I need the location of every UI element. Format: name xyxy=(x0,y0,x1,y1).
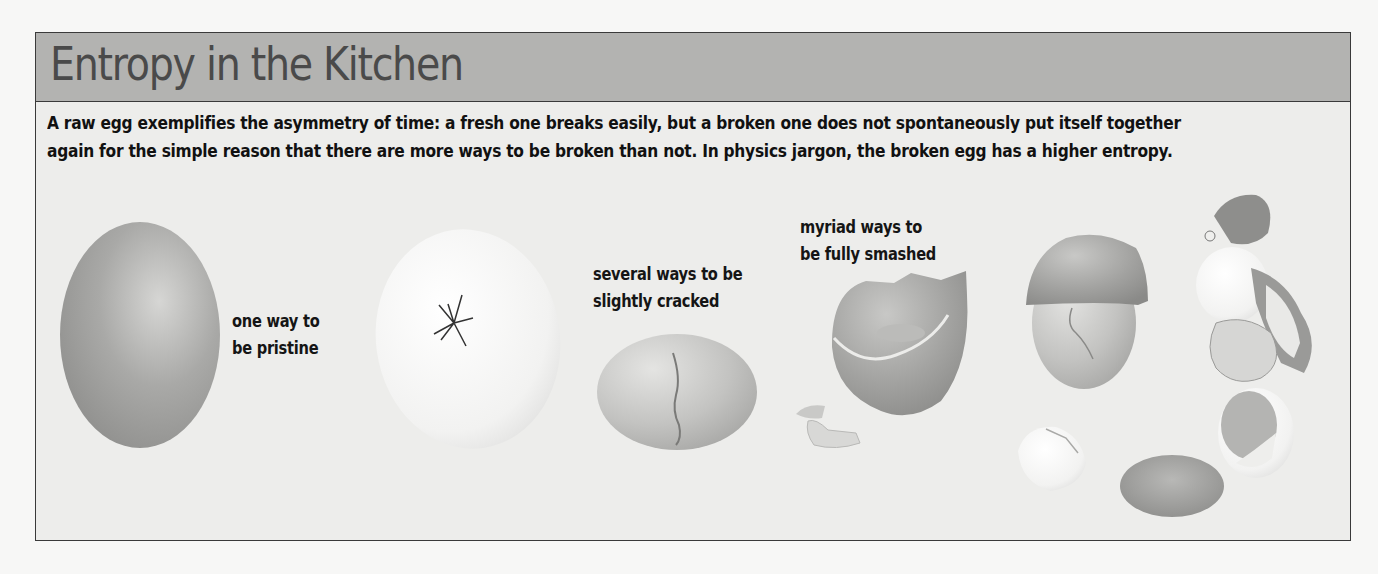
crushed-egg-pile-icon xyxy=(1196,195,1312,381)
broken-shell-half-icon xyxy=(1018,427,1086,491)
cracked-egg-star-icon xyxy=(362,217,575,460)
label-smashed: myriad ways to be fully smashed xyxy=(800,214,936,268)
figure-header: Entropy in the Kitchen xyxy=(36,33,1350,102)
label-smashed-line-1: myriad ways to xyxy=(800,214,936,241)
shell-fragments-icon xyxy=(796,405,860,447)
label-smashed-line-2: be fully smashed xyxy=(800,241,936,268)
capped-broken-egg-icon xyxy=(1026,235,1148,389)
pristine-egg-icon xyxy=(60,222,220,448)
label-pristine-line-2: be pristine xyxy=(232,335,319,362)
figure-title: Entropy in the Kitchen xyxy=(50,37,463,91)
label-pristine: one way to be pristine xyxy=(232,308,319,362)
label-cracked-line-1: several ways to be xyxy=(593,261,742,288)
label-cracked-line-2: slightly cracked xyxy=(593,288,742,315)
yolk-and-shell-halves-icon xyxy=(1120,388,1294,517)
entropy-figure: Entropy in the Kitchen A raw egg exempli… xyxy=(35,32,1351,541)
label-pristine-line-1: one way to xyxy=(232,308,319,335)
open-shell-egg-icon xyxy=(832,271,967,415)
figure-caption: A raw egg exemplifies the asymmetry of t… xyxy=(47,109,1216,165)
caption-line-1: A raw egg exemplifies the asymmetry of t… xyxy=(47,109,1216,137)
label-cracked: several ways to be slightly cracked xyxy=(593,261,742,315)
caption-line-2: again for the simple reason that there a… xyxy=(47,137,1216,165)
cracked-egg-line-icon xyxy=(597,334,757,450)
